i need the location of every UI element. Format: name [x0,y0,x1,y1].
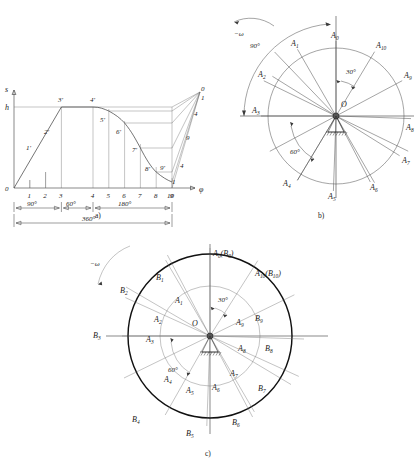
arc-60-arrow-a [290,122,293,126]
label-A4-c: A4 [163,375,172,385]
label-A0: A0 [330,31,339,41]
arc-30-arrow-a [336,80,340,83]
ray-A8 [336,116,411,119]
angle-arc-30-b [336,80,355,90]
stroke-label-h: h [5,103,9,112]
label-A5: A5 [327,192,336,202]
angle-label-90-b: 90° [250,42,260,50]
label-A8: A8 [405,123,414,133]
curve-point-2p: 2' [44,128,50,136]
tick-4: 4 [91,192,95,200]
ray-A7 [336,116,400,156]
caption-b: b) [318,204,324,222]
diagram-b-container: 90° 30° 60° −ω O A0 A1 A2 A3 A4 A5 A6 A7… [218,8,418,203]
tick-5: 5 [107,192,111,200]
label-B6-c: B6 [232,418,240,428]
ext-9-c [124,336,210,378]
label-B3-c: B3 [93,331,101,341]
label-A7: A7 [401,156,410,166]
ext-6-c [167,255,210,336]
axis-label-s: s [5,85,8,94]
label-A3-c: A3 [145,335,154,345]
ext-2-c [210,336,299,376]
ext-A9 [270,116,336,151]
center-label-b: O [341,100,347,109]
ray-8-c [210,336,304,339]
rise-curve [14,107,61,188]
dimension-chain-total: 360° [14,214,172,227]
caption-a: a) [95,204,101,222]
caption-b-text: b) [318,211,324,220]
ext-A7 [272,76,336,116]
center-label-c: O [192,319,198,328]
rotation-arrow-b [234,18,274,26]
dimension-chain-2: 60° [63,200,93,212]
ray-7-c [210,336,291,385]
angle-label-30-b: 30° [345,68,356,76]
arc-60-arrow-b [311,158,315,162]
ray-A2 [264,81,336,116]
label-B8-c: B8 [265,344,273,354]
label-A6-c: A6 [211,383,220,393]
right-label-4b: 4 [180,162,184,170]
dim-180: 180° [118,200,132,208]
arc-30-c [215,308,227,315]
right-label-4a: 4 [194,110,198,118]
rotation-label-b: −ω [234,30,244,38]
combined-labels-c: A0(B0) A10(B10) [212,249,281,279]
ray-A9 [336,81,402,116]
angle-label-60-b: 60° [290,148,300,156]
label-A9-c: A9 [235,318,244,328]
x-tick-labels: 1 2 3 4 5 6 7 8 9 10 [28,192,174,200]
curve-point-7p: 7' [132,146,138,154]
diagram-c-container: 30° 60° −ω O A0(B0) A10(B10) A1 A2 A3 A4… [80,238,340,450]
dim-60: 60° [66,200,76,208]
dimension-chain-1: 90° [14,200,61,212]
axis-label-phi: φ [199,185,204,194]
label-A7-c: A7 [229,369,238,379]
tick-3: 3 [58,192,63,200]
ray-1-c [166,260,210,336]
label-A0B0: A0(B0) [212,249,234,259]
curve-point-1p: 1' [26,144,32,152]
label-B1-c: B1 [156,273,164,283]
label-A4: A4 [282,179,291,189]
right-label-0: 0 [201,85,205,93]
omega-arc-b [234,18,274,26]
ray-A1 [298,49,337,116]
ray-5-c [207,336,210,426]
ext-A6 [275,52,336,116]
label-A2: A2 [257,70,266,80]
ray-labels-b: A0 A1 A2 A3 A4 A5 A6 A7 A8 A9 A10 [251,31,414,202]
omega-arc-c [98,246,130,284]
tick-6: 6 [122,192,126,200]
axes-b [240,16,414,198]
ray-2-c [125,298,210,336]
label-B9-c: B9 [255,314,263,324]
ext-A10 [297,116,336,180]
dimension-chain-3: 180° [95,200,172,212]
label-B4-c: B4 [132,415,140,425]
angle-label-60-c: 60° [168,366,178,374]
arc-30 [341,81,355,87]
arc-60-c-arrow-a [170,338,173,342]
label-A3: A3 [251,106,260,116]
diagram-a-container: s h 0 φ [0,78,215,228]
ext-A2 [336,116,408,151]
curve-point-4p: 4' [90,96,96,104]
arc-90 [244,24,329,116]
caption-c: c) [205,442,211,460]
label-B7-c: B7 [258,384,266,394]
curve-point-3p: 3' [57,96,64,104]
arc-30-c-arrow-a [211,307,215,311]
arc-90-arrow-end [326,22,332,26]
origin-label-a: 0 [5,185,9,193]
curve-point-6p: 6' [116,128,122,136]
arc-90-arrow-start [242,111,246,117]
dim-360: 360° [81,215,96,223]
label-A2-c: A2 [153,315,162,325]
right-label-9: 9 [186,134,190,142]
caption-a-text: a) [95,211,101,220]
dim-90: 90° [27,200,37,208]
right-label-1b: 1 [172,178,176,186]
